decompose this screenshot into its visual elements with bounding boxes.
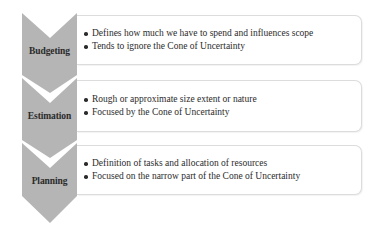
stage-label-planning: Planning	[22, 176, 77, 186]
bullet-text: Definition of tasks and allocation of re…	[92, 158, 267, 168]
stage-box-budgeting: Defines how much we have to spend and in…	[77, 15, 362, 65]
bullet-list: Definition of tasks and allocation of re…	[84, 157, 300, 183]
bullet-item: Focused on the narrow part of the Cone o…	[84, 170, 300, 183]
stage-label-budgeting: Budgeting	[22, 46, 77, 56]
process-diagram: Budgeting Estimation Planning Defines ho…	[0, 0, 382, 238]
stage-box-planning: Definition of tasks and allocation of re…	[77, 145, 362, 195]
bullet-icon	[84, 162, 88, 166]
bullet-item: Defines how much we have to spend and in…	[84, 27, 313, 40]
bullet-item: Definition of tasks and allocation of re…	[84, 157, 300, 170]
stage-box-estimation: Rough or approximate size extent or natu…	[77, 80, 362, 132]
bullet-item: Rough or approximate size extent or natu…	[84, 93, 257, 106]
bullet-icon	[84, 175, 88, 179]
bullet-icon	[84, 98, 88, 102]
bullet-text: Defines how much we have to spend and in…	[92, 28, 313, 38]
bullet-item: Focused by the Cone of Uncertainty	[84, 106, 257, 119]
bullet-list: Rough or approximate size extent or natu…	[84, 93, 257, 119]
bullet-text: Tends to ignore the Cone of Uncertainty	[92, 41, 245, 51]
bullet-list: Defines how much we have to spend and in…	[84, 27, 313, 53]
bullet-text: Focused on the narrow part of the Cone o…	[92, 171, 300, 181]
bullet-icon	[84, 32, 88, 36]
bullet-item: Tends to ignore the Cone of Uncertainty	[84, 40, 313, 53]
stage-label-estimation: Estimation	[22, 111, 77, 121]
bullet-icon	[84, 111, 88, 115]
bullet-text: Focused by the Cone of Uncertainty	[92, 107, 229, 117]
bullet-text: Rough or approximate size extent or natu…	[92, 94, 257, 104]
bullet-icon	[84, 45, 88, 49]
